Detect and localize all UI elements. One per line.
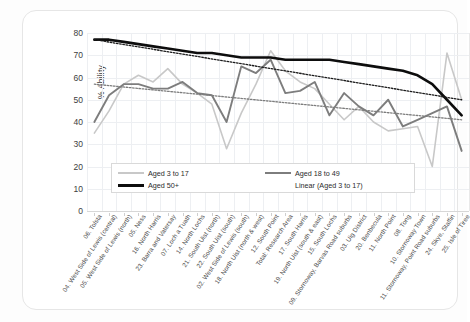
chart-frame: % Ability 01020304050607080 06. Tolsta04… [22, 10, 458, 310]
y-tick-label: 80 [43, 28, 83, 38]
legend-label-senior: Aged 50+ [148, 181, 179, 190]
y-tick-label: 40 [43, 117, 83, 127]
trendline [94, 84, 461, 120]
legend-item-senior: Aged 50+ [118, 181, 261, 190]
trendline [94, 40, 461, 100]
chart-legend: Aged 3 to 17 Aged 18 to 49 Aged 50+ Line… [111, 163, 415, 193]
legend-swatch-senior-icon [118, 184, 144, 187]
y-tick-label: 70 [43, 50, 83, 60]
legend-item-child: Aged 3 to 17 [118, 169, 261, 178]
x-axis-line [87, 211, 469, 212]
legend-swatch-adult-icon [265, 172, 291, 174]
series-line [94, 60, 461, 151]
y-tick-label: 20 [43, 162, 83, 172]
legend-item-adult: Aged 18 to 49 [265, 169, 408, 178]
y-tick-label: 50 [43, 95, 83, 105]
legend-label-trend: Linear (Aged 3 to 17) [295, 181, 363, 190]
legend-label-adult: Aged 18 to 49 [295, 169, 340, 178]
legend-swatch-child-icon [118, 172, 144, 174]
legend-label-child: Aged 3 to 17 [148, 169, 189, 178]
y-tick-label: 30 [43, 139, 83, 149]
y-tick-label: 10 [43, 184, 83, 194]
series-line [94, 51, 461, 167]
legend-item-trend: Linear (Aged 3 to 17) [265, 181, 408, 190]
y-tick-label: 0 [43, 206, 83, 216]
y-tick-label: 60 [43, 73, 83, 83]
